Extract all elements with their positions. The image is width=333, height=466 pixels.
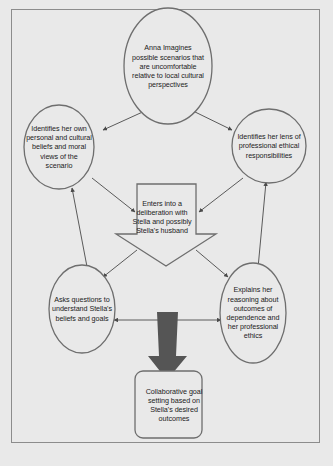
edge-bottom-left-to-left xyxy=(72,188,88,272)
edge-right-to-center xyxy=(199,178,243,212)
edge-bottom-right-to-right xyxy=(258,182,266,268)
node-explains-reasoning[interactable] xyxy=(220,263,286,363)
edge-center-to-bottom-left xyxy=(103,250,137,277)
node-asks-questions[interactable] xyxy=(49,265,115,353)
edge-left-to-center xyxy=(92,178,135,212)
node-collaborative-goal-setting[interactable] xyxy=(135,371,202,438)
diagram-canvas xyxy=(0,0,333,466)
edge-top-to-right xyxy=(191,110,232,130)
node-identifies-professional-lens[interactable] xyxy=(232,109,306,183)
node-anna-imagines-scenarios[interactable] xyxy=(124,8,212,124)
node-identifies-personal-beliefs[interactable] xyxy=(24,105,94,189)
edge-top-to-left xyxy=(103,110,147,130)
thick-down-arrow-icon xyxy=(148,312,187,380)
edge-center-to-bottom-right xyxy=(196,250,228,277)
